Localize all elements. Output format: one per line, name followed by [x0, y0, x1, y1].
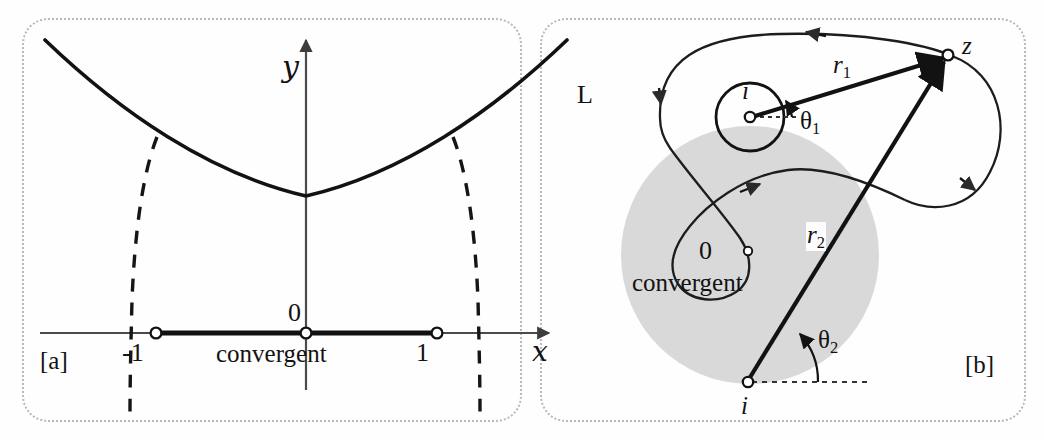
r1-base: r	[833, 51, 843, 78]
r2-subscript: 2	[817, 233, 825, 252]
contour-label-L: L	[577, 82, 593, 108]
theta2-base: θ	[818, 326, 830, 353]
panel-b-frame	[540, 18, 1026, 422]
angle-label-theta1: θ1	[800, 108, 820, 137]
theta2-subscript: 2	[830, 338, 838, 357]
origin-label-b: 0	[699, 238, 712, 264]
theta1-base: θ	[800, 107, 812, 134]
x-axis-label: x	[532, 338, 548, 366]
convergent-label-a: convergent	[216, 341, 327, 366]
point-label-i-lower: i	[741, 393, 748, 418]
tick-label-one: 1	[416, 340, 429, 366]
panel-tag-a: [a]	[40, 348, 68, 373]
radius-label-r2: r2	[806, 222, 826, 251]
figure-canvas: y x 0 -1 1 convergent [a] L z i i r1 r2 …	[0, 0, 1044, 440]
r1-subscript: 1	[843, 63, 851, 82]
origin-label-a: 0	[288, 300, 301, 326]
tick-label-minus-one: -1	[122, 340, 144, 366]
panel-tag-b: [b]	[965, 352, 994, 377]
y-axis-label: y	[282, 52, 299, 82]
r2-base: r	[807, 221, 817, 248]
point-label-z: z	[962, 33, 972, 58]
angle-label-theta2: θ2	[818, 327, 838, 356]
convergent-label-b: convergent	[632, 270, 743, 295]
point-label-i-upper: i	[742, 78, 749, 103]
theta1-subscript: 1	[812, 119, 820, 138]
radius-label-r1: r1	[833, 52, 851, 81]
